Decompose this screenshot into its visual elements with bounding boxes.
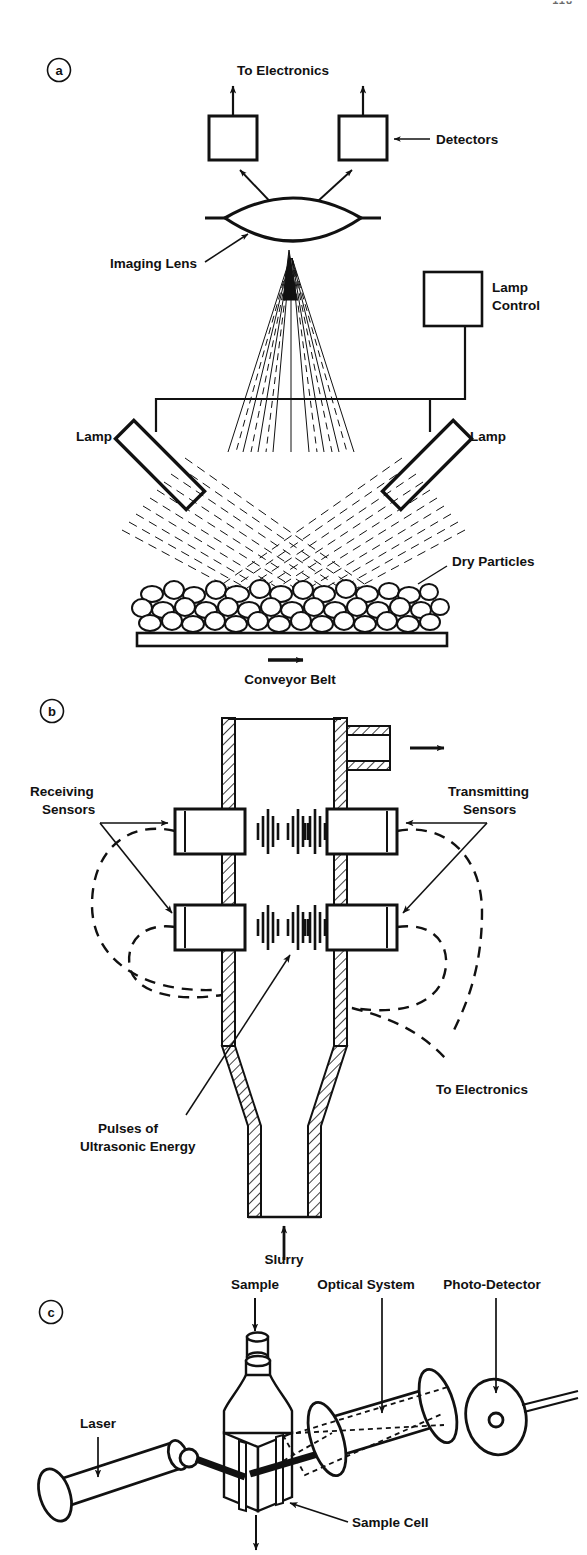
imaging-lens-body — [225, 198, 361, 241]
sensor-transmitting-lower — [327, 905, 397, 950]
sample-cell-assembly — [224, 1333, 292, 1512]
label-laser: Laser — [80, 1416, 117, 1431]
label-optical-system: Optical System — [317, 1277, 415, 1292]
label-pulses-line2: Ultrasonic Energy — [80, 1139, 196, 1154]
panel-c-id-badge: c — [40, 1301, 63, 1324]
label-lamp-control-line2: Control — [492, 298, 540, 313]
label-conveyor-belt: Conveyor Belt — [244, 672, 336, 687]
lamp-control-box — [424, 272, 482, 326]
pipe-wall-left-cone — [222, 1046, 261, 1217]
label-to-electronics-a: To Electronics — [237, 63, 329, 78]
laser-source-body — [32, 1438, 198, 1525]
label-to-electronics-b: To Electronics — [436, 1082, 528, 1097]
dry-particle-bed — [132, 580, 449, 632]
pipe-wall-right-cone — [308, 1046, 347, 1217]
ultrasonic-burst-upper — [258, 809, 325, 854]
label-receiving-sensors-line2: Sensors — [42, 802, 95, 817]
label-sample: Sample — [231, 1277, 280, 1292]
sensor-receiving-upper — [175, 809, 245, 854]
panel-a-diagram: a To Electronics Detectors Imaging Lens — [0, 0, 587, 690]
panel-a-id-badge: a — [48, 59, 71, 82]
transmitting-leader-lower — [403, 823, 487, 913]
sample-cell-leader — [290, 1503, 348, 1522]
lamp-right-body — [382, 420, 471, 509]
label-dry-particles: Dry Particles — [452, 554, 535, 569]
pipe-wall-right-upper — [334, 718, 347, 1046]
detector-box-right — [339, 116, 387, 160]
receiving-leader-lower — [100, 823, 172, 913]
label-detectors: Detectors — [436, 132, 498, 147]
pipe-outlet-lower-wall — [347, 761, 390, 770]
sensor-receiving-lower — [175, 905, 245, 950]
label-lamp-right: Lamp — [470, 429, 506, 444]
label-transmitting-sensors-line2: Sensors — [463, 802, 516, 817]
lamp-control-wire-left — [156, 326, 465, 432]
panel-c-id-text: c — [47, 1305, 54, 1320]
label-lamp-control-line1: Lamp — [492, 280, 528, 295]
ultrasonic-burst-lower — [258, 905, 325, 950]
label-pulses-line1: Pulses of — [98, 1121, 159, 1136]
panel-b-id-badge: b — [41, 700, 64, 723]
label-transmitting-sensors-line1: Transmitting — [448, 784, 529, 799]
detector-box-left — [209, 116, 257, 160]
label-receiving-sensors-line1: Receiving — [30, 784, 94, 799]
collection-ray-bundle — [228, 258, 354, 452]
panel-c-diagram: c Sample — [0, 1265, 587, 1555]
conveyor-belt-band — [137, 633, 447, 646]
sensor-transmitting-upper — [327, 809, 397, 854]
panel-a-id-text: a — [55, 63, 63, 78]
label-sample-cell: Sample Cell — [352, 1515, 429, 1530]
label-imaging-lens: Imaging Lens — [110, 256, 197, 271]
pipe-wall-left-upper — [222, 718, 235, 1046]
lamp-left-body — [115, 420, 204, 509]
pipe-outlet-upper-wall — [347, 726, 390, 735]
label-lamp-left: Lamp — [76, 429, 112, 444]
panel-b-id-text: b — [48, 704, 56, 719]
panel-b-diagram: b — [0, 690, 587, 1270]
label-photo-detector: Photo-Detector — [443, 1277, 541, 1292]
dry-particles-leader — [418, 566, 447, 584]
imaging-lens-leader — [205, 234, 248, 262]
photo-detector-leads — [522, 1391, 578, 1412]
